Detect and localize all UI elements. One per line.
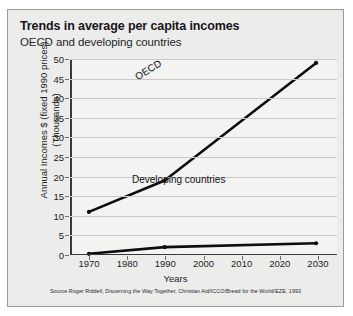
y-axis-tick-label: 45 [53,73,64,84]
y-axis-tick-label: 50 [53,54,64,65]
x-axis-tick-label: 1970 [78,258,99,269]
x-axis-tick-label: 2030 [307,258,328,269]
y-axis-tick [65,235,69,236]
y-axis-tick [65,137,69,138]
x-axis-line [70,254,337,256]
y-axis-tick [65,255,69,256]
series-label-developing-countries: Developing countries [132,174,225,185]
series-line-developing-countries [89,243,316,254]
gridline [70,196,337,197]
y-axis-tick [65,177,69,178]
y-axis-tick-label: 15 [53,191,64,202]
y-axis-tick-labels: 05101520253035404550 [46,59,64,255]
y-axis-tick [65,79,69,80]
x-axis-tick-label: 2000 [193,258,214,269]
gridline [70,235,337,236]
x-axis-tick-label: 2020 [269,258,290,269]
y-axis-tick [65,216,69,217]
source-note: Source Roger Riddell, Discerning the Way… [8,288,343,294]
y-axis-tick-label: 35 [53,112,64,123]
chart-figure: Trends in average per capita incomes OEC… [7,9,344,307]
y-axis-tick [65,118,69,119]
y-axis-tick-label: 10 [53,210,64,221]
y-axis-tick-label: 40 [53,93,64,104]
gridline [70,98,337,99]
gridline [70,137,337,138]
data-point-marker [87,210,91,214]
y-axis-tick [65,157,69,158]
plot-area [70,59,337,255]
y-axis-tick-label: 20 [53,171,64,182]
y-axis-tick [65,59,69,60]
data-point-marker [314,241,318,245]
y-axis-tick [65,98,69,99]
data-point-marker [163,245,167,249]
y-axis-tick-label: 0 [59,250,64,261]
x-axis-tick-labels: 1970198019902000201020202030 [70,258,337,272]
x-axis-tick-label: 1980 [117,258,138,269]
y-axis-tick-label: 5 [59,230,64,241]
y-axis-tick-label: 30 [53,132,64,143]
gridline [70,79,337,80]
y-axis-tick-label: 25 [53,152,64,163]
x-axis-tick-label: 2010 [231,258,252,269]
x-axis-title: Years [8,273,343,284]
data-point-marker [314,61,318,65]
gridline [70,216,337,217]
y-axis-tick [65,196,69,197]
gridline [70,59,337,60]
gridline [70,118,337,119]
gridline [70,157,337,158]
x-axis-tick-label: 1990 [155,258,176,269]
